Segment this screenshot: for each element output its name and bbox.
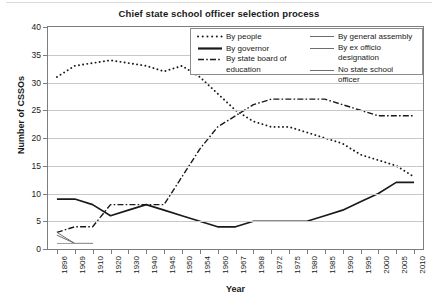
legend-item[interactable]: No state school officer <box>309 65 412 87</box>
legend-item[interactable]: By governor <box>197 43 292 55</box>
legend-label: By general assembly <box>338 31 412 42</box>
chart-legend: By peopleBy governorBy state board of ed… <box>190 28 423 75</box>
x-tick-mark <box>218 250 219 254</box>
legend-label: By ex officio designation <box>338 43 404 64</box>
x-tick-mark <box>325 250 326 254</box>
x-tick-label: 1960 <box>221 256 230 274</box>
x-tick-label: 1968 <box>257 256 266 274</box>
x-tick-mark <box>378 250 379 254</box>
y-tick-label: 5 <box>36 216 41 226</box>
x-tick-mark <box>361 250 362 254</box>
x-tick-label: 1910 <box>96 256 105 274</box>
x-tick-label: 1967 <box>239 256 248 274</box>
solid-thin-line-swatch <box>309 31 335 42</box>
x-tick-label: 1920 <box>114 256 123 274</box>
x-tick-mark <box>253 250 254 254</box>
y-tick-label: 0 <box>36 244 41 254</box>
x-tick-label: 2005 <box>400 256 409 274</box>
x-tick-label: 1896 <box>60 256 69 274</box>
legend-label: By state board of education <box>226 54 292 75</box>
x-tick-mark <box>75 250 76 254</box>
solid-thin-line-swatch <box>309 43 335 54</box>
series-line <box>57 235 93 243</box>
x-axis-title: Year <box>47 284 424 294</box>
x-tick-mark <box>146 250 147 254</box>
gridline <box>48 221 423 222</box>
legend-item[interactable]: By state board of education <box>197 54 292 76</box>
gridline <box>48 110 423 111</box>
x-tick-label: 2000 <box>382 256 391 274</box>
legend-column: By peopleBy governorBy state board of ed… <box>197 31 292 76</box>
x-tick-label: 2010 <box>418 256 427 274</box>
x-tick-mark <box>271 250 272 254</box>
x-tick-label: 1930 <box>132 256 141 274</box>
chart-figure: Chief state school officer selection pro… <box>0 0 438 302</box>
x-tick-label: 1975 <box>293 256 302 274</box>
x-tick-mark <box>128 250 129 254</box>
x-tick-mark <box>396 250 397 254</box>
x-tick-mark <box>182 250 183 254</box>
x-tick-mark <box>57 250 58 254</box>
solid-thin-line-swatch <box>309 65 335 76</box>
x-tick-mark <box>200 250 201 254</box>
x-tick-mark <box>111 250 112 254</box>
y-tick-label: 20 <box>32 133 41 143</box>
y-tick-label: 35 <box>32 50 41 60</box>
x-tick-label: 1950 <box>185 256 194 274</box>
gridline <box>48 194 423 195</box>
x-tick-mark <box>343 250 344 254</box>
x-tick-label: 1954 <box>203 256 212 274</box>
x-tick-label: 1940 <box>150 256 159 274</box>
x-tick-label: 1972 <box>275 256 284 274</box>
legend-label: No state school officer <box>338 65 404 86</box>
legend-item[interactable]: By general assembly <box>309 31 412 43</box>
dotted-line-swatch <box>197 31 223 42</box>
y-tick-label: 10 <box>32 189 41 199</box>
y-tick-label: 15 <box>32 161 41 171</box>
y-tick-label: 25 <box>32 105 41 115</box>
legend-item[interactable]: By people <box>197 31 292 43</box>
x-tick-mark <box>236 250 237 254</box>
gridline <box>48 138 423 139</box>
x-tick-mark <box>164 250 165 254</box>
y-axis: Number of CSSOs 0510152025303540 <box>0 26 47 250</box>
page-title: Chief state school officer selection pro… <box>0 8 438 19</box>
y-tick-label: 40 <box>32 22 41 32</box>
x-tick-label: 1945 <box>168 256 177 274</box>
dash-dot-line-swatch <box>197 54 223 65</box>
gridline <box>48 166 423 167</box>
x-axis: 1896190919101920193019401945195019541960… <box>47 250 424 302</box>
x-tick-label: 1985 <box>328 256 337 274</box>
x-tick-label: 1990 <box>346 256 355 274</box>
legend-label: By governor <box>226 43 269 54</box>
y-axis-title: Number of CSSOs <box>16 40 26 190</box>
x-tick-mark <box>414 250 415 254</box>
legend-item[interactable]: By ex officio designation <box>309 43 412 65</box>
legend-column: By general assemblyBy ex officio designa… <box>309 31 412 87</box>
legend-label: By people <box>226 31 262 42</box>
x-tick-label: 1995 <box>364 256 373 274</box>
x-tick-label: 1909 <box>78 256 87 274</box>
y-tick-label: 30 <box>32 78 41 88</box>
top-divider <box>6 2 432 3</box>
solid-thick-line-swatch <box>197 43 223 54</box>
x-tick-mark <box>93 250 94 254</box>
x-tick-mark <box>307 250 308 254</box>
x-tick-mark <box>289 250 290 254</box>
x-tick-label: 1980 <box>310 256 319 274</box>
